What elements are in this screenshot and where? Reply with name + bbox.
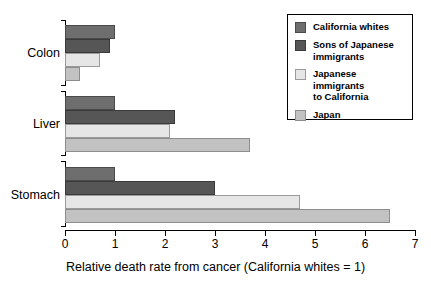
bar-stomach-series-0 [65,167,115,181]
legend-swatch-sons-of-japanese-immigrants [295,40,306,51]
legend-item-label: Japan [313,109,340,121]
x-tick [65,231,66,236]
x-tick-label: 2 [153,237,177,251]
legend-item-label: California whites [313,21,389,33]
legend-swatch-japan [295,110,306,121]
bar-colon-series-0 [65,25,115,39]
x-tick [115,231,116,236]
bar-colon-series-2 [65,53,100,67]
x-axis-line [65,230,416,231]
bar-chart: ColonLiverStomach 01234567 Relative deat… [0,0,431,291]
legend-swatch-japanese-immigrants-to-california [295,69,306,80]
legend-item-label: Japanese immigrants to California [313,68,407,103]
group-spine-cap [61,20,66,21]
x-tick-label: 7 [403,237,427,251]
group-spine-cap [61,85,66,86]
x-tick-label: 3 [203,237,227,251]
bar-liver-series-2 [65,124,170,138]
legend-item[interactable]: Japan [295,109,407,121]
legend-item-label: Sons of Japanese immigrants [313,39,394,62]
category-label-liver: Liver [0,117,60,131]
x-tick [315,231,316,236]
group-spine-cap [61,91,66,92]
x-tick [215,231,216,236]
bar-colon-series-3 [65,67,80,81]
bar-liver-series-3 [65,138,250,152]
group-spine-cap [61,155,66,156]
bar-liver-series-1 [65,110,175,124]
bar-stomach-series-1 [65,181,215,195]
x-tick-label: 1 [103,237,127,251]
legend-swatch-california-whites [295,22,306,33]
bar-stomach-series-3 [65,209,390,223]
category-label-stomach: Stomach [0,188,60,202]
x-tick [365,231,366,236]
x-tick [165,231,166,236]
group-spine-cap [61,161,66,162]
x-tick [265,231,266,236]
x-tick-label: 0 [53,237,77,251]
bar-stomach-series-2 [65,195,300,209]
bar-liver-series-0 [65,96,115,110]
category-label-colon: Colon [0,46,60,60]
group-spine-cap [61,226,66,227]
x-tick-label: 5 [303,237,327,251]
bar-colon-series-1 [65,39,110,53]
x-axis-title: Relative death rate from cancer (Califor… [0,260,431,274]
legend-item[interactable]: California whites [295,21,407,33]
y-axis-category-labels: ColonLiverStomach [0,0,60,291]
legend: California whitesSons of Japanese immigr… [287,14,413,120]
legend-item[interactable]: Sons of Japanese immigrants [295,39,407,62]
x-tick [415,231,416,236]
x-tick-label: 4 [253,237,277,251]
x-tick-label: 6 [353,237,377,251]
legend-item[interactable]: Japanese immigrants to California [295,68,407,103]
